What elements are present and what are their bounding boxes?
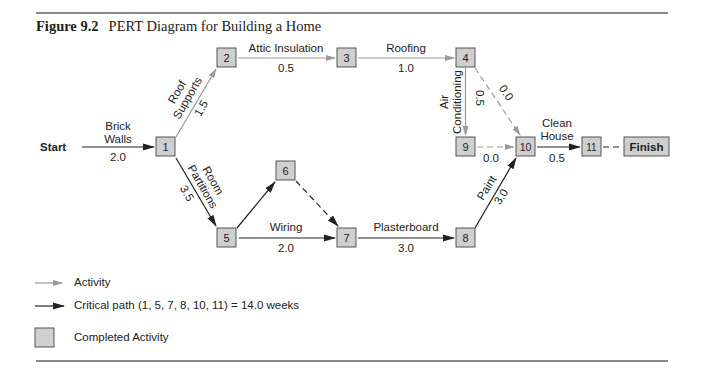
air-conditioning-duration: 0.5 [474,90,486,106]
node-11: 11 [582,137,601,156]
start-label: Start [40,141,66,153]
svg-text:8: 8 [462,232,468,244]
node-10: 10 [516,137,535,156]
room-partitions-duration: 3.5 [178,183,196,203]
node-8: 8 [456,228,475,247]
legend-completed-box [35,328,54,347]
edge-dummy-6-7 [296,181,338,226]
paint-duration: 3.0 [492,187,511,207]
wiring-duration: 2.0 [278,242,294,254]
legend-activity: Activity [74,276,110,288]
clean-house-duration: 0.5 [549,152,565,164]
air-conditioning-label-2: Conditioning [451,70,463,134]
svg-text:10: 10 [520,141,532,153]
roofing-label: Roofing [386,42,426,54]
node-3: 3 [337,48,356,67]
bottom-rule [36,360,668,362]
air-conditioning-label-1: Air [438,95,450,109]
svg-text:1: 1 [162,141,168,153]
clean-house-label-1: Clean [542,117,572,129]
roof-supports-duration: 1.5 [192,98,210,118]
svg-text:2: 2 [223,52,229,64]
wiring-label: Wiring [270,221,303,233]
svg-text:Finish: Finish [630,141,664,153]
node-5: 5 [217,228,236,247]
finish-node: Finish [624,137,669,156]
node-6: 6 [276,161,295,180]
node-1: 1 [156,137,175,156]
svg-text:7: 7 [343,232,349,244]
plasterboard-duration: 3.0 [398,242,414,254]
attic-insulation-label: Attic Insulation [249,42,324,54]
node-4: 4 [456,48,475,67]
svg-text:11: 11 [586,142,597,153]
dummy-9-10-duration: 0.0 [483,152,499,164]
roofing-duration: 1.0 [398,62,414,74]
svg-text:9: 9 [462,141,468,153]
legend-critical-path: Critical path (1, 5, 7, 8, 10, 11) = 14.… [74,299,299,311]
node-7: 7 [337,228,356,247]
svg-text:6: 6 [282,165,288,177]
dummy-4-10-duration: 0.0 [497,83,516,103]
node-9: 9 [456,137,475,156]
brick-walls-label-1: Brick [105,120,131,132]
edge-labels: Start Brick Walls 2.0 Roof Supports 1.5 … [40,42,574,254]
svg-text:3: 3 [343,52,349,64]
svg-text:4: 4 [462,52,468,64]
legend-completed: Completed Activity [74,331,169,343]
node-2: 2 [217,48,236,67]
plasterboard-label: Plasterboard [373,221,438,233]
pert-diagram: Start Brick Walls 2.0 Roof Supports 1.5 … [0,0,704,379]
svg-text:5: 5 [223,232,229,244]
legend-graphics [35,283,64,347]
clean-house-label-2: House [540,130,573,142]
attic-insulation-duration: 0.5 [278,62,294,74]
brick-walls-label-2: Walls [104,133,132,145]
brick-walls-duration: 2.0 [110,151,126,163]
nodes: 1 2 3 4 5 6 7 8 9 10 11 Finish [156,48,669,247]
